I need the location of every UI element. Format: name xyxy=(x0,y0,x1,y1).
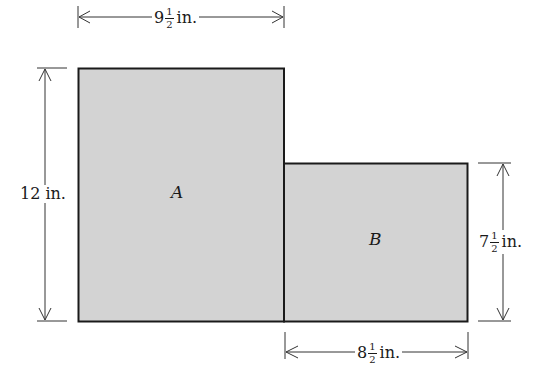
left-text: 12 in. xyxy=(20,186,66,202)
right-fraction: 1 2 xyxy=(490,231,498,254)
region-label-a: A xyxy=(171,184,183,201)
left-dimension-label: 12 in. xyxy=(18,185,68,203)
top-dimension-label: 9 1 2 in. xyxy=(152,6,199,30)
bottom-whole: 8 xyxy=(357,345,367,361)
bottom-fraction: 1 2 xyxy=(368,342,376,365)
top-fraction-denominator: 2 xyxy=(166,19,172,30)
bottom-unit: in. xyxy=(380,345,401,361)
right-unit: in. xyxy=(502,234,523,250)
bottom-fraction-numerator: 1 xyxy=(368,342,376,354)
bottom-dimension-label: 8 1 2 in. xyxy=(355,341,402,365)
top-fraction: 1 2 xyxy=(165,7,173,30)
right-dimension-label: 7 1 2 in. xyxy=(477,230,524,254)
top-unit: in. xyxy=(177,10,198,26)
composite-figure-diagram: A B 9 1 2 in. 12 in. 7 1 2 in. 8 1 2 in. xyxy=(0,0,542,387)
top-fraction-numerator: 1 xyxy=(165,7,173,19)
region-label-b: B xyxy=(369,231,382,248)
right-fraction-numerator: 1 xyxy=(490,231,498,243)
bottom-fraction-denominator: 2 xyxy=(369,354,375,365)
right-fraction-denominator: 2 xyxy=(491,243,497,254)
top-whole: 9 xyxy=(154,10,164,26)
right-whole: 7 xyxy=(479,234,489,250)
